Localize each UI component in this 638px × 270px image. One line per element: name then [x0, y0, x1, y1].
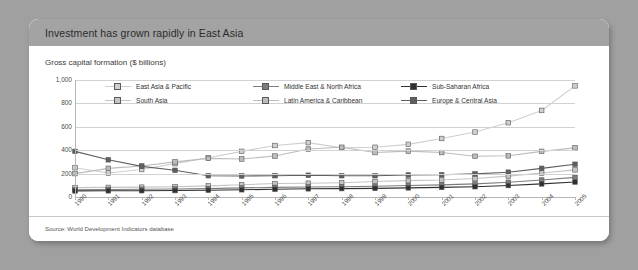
data-point-marker	[273, 154, 278, 159]
data-point-marker	[139, 188, 144, 193]
data-point-marker	[239, 157, 244, 162]
data-point-marker	[406, 178, 411, 183]
data-point-marker	[506, 154, 511, 159]
y-axis	[75, 80, 76, 197]
data-point-marker	[473, 176, 478, 181]
legend-item[interactable]: Sub-Saharan Africa	[401, 81, 549, 91]
legend-label: Sub-Saharan Africa	[432, 83, 489, 90]
gridline	[75, 150, 575, 151]
data-point-marker	[273, 143, 278, 148]
legend-marker-icon	[401, 95, 427, 105]
data-point-marker	[106, 157, 111, 162]
data-point-marker	[439, 185, 444, 190]
legend-row: South AsiaLatin America & CaribbeanEurop…	[105, 93, 551, 107]
legend-label: Europe & Central Asia	[432, 97, 497, 104]
y-axis-tick-label: 800	[32, 99, 72, 106]
data-point-marker	[539, 166, 544, 171]
data-point-marker	[573, 162, 578, 167]
data-point-marker	[106, 166, 111, 171]
legend-item[interactable]: South Asia	[105, 95, 253, 105]
data-point-marker	[106, 189, 111, 194]
legend-label: Latin America & Caribbean	[284, 97, 362, 104]
data-point-marker	[273, 187, 278, 192]
footer-divider	[29, 216, 609, 217]
chart-subtitle: Gross capital formation ($ billions)	[45, 58, 166, 67]
legend-item[interactable]: Europe & Central Asia	[401, 95, 549, 105]
data-point-marker	[173, 168, 178, 173]
series-line	[75, 147, 575, 173]
data-point-marker	[139, 164, 144, 169]
legend-marker-icon	[401, 81, 427, 91]
data-point-marker	[473, 130, 478, 135]
data-point-marker	[373, 145, 378, 150]
legend-label: Middle East & North Africa	[284, 83, 361, 90]
data-point-marker	[206, 188, 211, 193]
data-point-marker	[473, 184, 478, 189]
data-point-marker	[373, 186, 378, 191]
data-point-marker	[339, 145, 344, 150]
legend-marker-icon	[253, 95, 279, 105]
series-line	[75, 151, 575, 176]
chart-legend: East Asia & PacificMiddle East & North A…	[105, 79, 551, 111]
data-point-marker	[573, 168, 578, 173]
legend-item[interactable]: Middle East & North Africa	[253, 81, 401, 91]
data-point-marker	[473, 154, 478, 159]
legend-label: South Asia	[136, 97, 168, 104]
card-header: Investment has grown rapidly in East Asi…	[29, 19, 609, 46]
data-point-marker	[439, 178, 444, 183]
data-point-marker	[173, 188, 178, 193]
data-point-marker	[573, 175, 578, 180]
data-point-marker	[573, 84, 578, 89]
data-point-marker	[306, 187, 311, 192]
legend-item[interactable]: Latin America & Caribbean	[253, 95, 401, 105]
legend-marker-icon	[105, 81, 131, 91]
source-note: Source: World Development Indicators dat…	[45, 226, 174, 232]
data-point-marker	[206, 156, 211, 161]
y-axis-tick-label: 1,000	[32, 76, 72, 83]
card-body: Gross capital formation ($ billions) 020…	[29, 46, 609, 241]
x-axis-tick-label: 2005	[573, 192, 588, 207]
page-title: Investment has grown rapidly in East Asi…	[45, 27, 243, 39]
legend-row: East Asia & PacificMiddle East & North A…	[105, 79, 551, 93]
y-axis-tick-label: 600	[32, 123, 72, 130]
data-point-marker	[173, 160, 178, 165]
y-axis-tick-label: 0	[32, 193, 72, 200]
data-point-marker	[373, 179, 378, 184]
screenshot-root: Investment has grown rapidly in East Asi…	[0, 0, 638, 270]
legend-marker-icon	[253, 81, 279, 91]
y-axis-tick-label: 200	[32, 170, 72, 177]
data-point-marker	[239, 187, 244, 192]
legend-item[interactable]: East Asia & Pacific	[105, 81, 253, 91]
y-axis-tick-label: 400	[32, 146, 72, 153]
plot-area: 02004006008001,0001990199119921993199419…	[29, 74, 609, 224]
gridline	[75, 127, 575, 128]
data-point-marker	[406, 142, 411, 147]
gridline	[75, 174, 575, 175]
legend-label: East Asia & Pacific	[136, 83, 191, 90]
data-point-marker	[339, 186, 344, 191]
data-point-marker	[573, 180, 578, 185]
series-line	[75, 177, 575, 189]
chart-card: Investment has grown rapidly in East Asi…	[29, 19, 609, 241]
data-point-marker	[439, 136, 444, 141]
legend-marker-icon	[105, 95, 131, 105]
data-point-marker	[506, 183, 511, 188]
data-point-marker	[539, 182, 544, 187]
data-point-marker	[506, 120, 511, 125]
data-point-marker	[406, 186, 411, 191]
data-point-marker	[306, 140, 311, 145]
